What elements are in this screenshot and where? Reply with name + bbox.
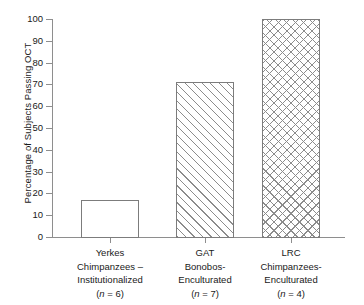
bar-gat-bonobos xyxy=(176,82,234,238)
y-axis-tick-label: 60 xyxy=(0,101,43,111)
x-axis-label-lrc-chimpanzees: LRCChimpanzees-Enculturated(n = 4) xyxy=(231,246,351,300)
y-axis-tick-label: 80 xyxy=(0,58,43,68)
y-axis-tick-label: 20 xyxy=(0,188,43,198)
y-axis-tick-label: 10 xyxy=(0,210,43,220)
sample-size-symbol: n xyxy=(280,288,285,299)
x-axis-tick xyxy=(110,238,111,243)
x-axis-label-line: Chimpanzees- xyxy=(231,260,351,274)
sample-size-symbol: n xyxy=(194,288,199,299)
bar-chart: Percentage of Subjects Passing OCT 01020… xyxy=(0,0,364,305)
y-axis-tick-label: 70 xyxy=(0,79,43,89)
x-axis-label-line: Enculturated xyxy=(231,273,351,287)
y-axis-tick-label: 90 xyxy=(0,36,43,46)
y-axis-tick-labels: 0102030405060708090100 xyxy=(0,0,43,305)
y-axis-tick-label: 40 xyxy=(0,145,43,155)
sample-size-label: (n = 4) xyxy=(231,287,351,301)
sample-size-symbol: n xyxy=(99,288,104,299)
x-axis-tick xyxy=(291,238,292,243)
y-axis-tick-label: 30 xyxy=(0,167,43,177)
y-axis-tick-label: 0 xyxy=(0,232,43,242)
y-axis-tick-label: 50 xyxy=(0,123,43,133)
y-axis-tick-label: 100 xyxy=(0,14,43,24)
bar-lrc-chimpanzees xyxy=(262,19,320,238)
y-axis-line xyxy=(52,19,53,238)
x-axis-tick xyxy=(205,238,206,243)
bar-yerkes-chimpanzees xyxy=(81,200,139,238)
x-axis-label-line: LRC xyxy=(231,246,351,260)
